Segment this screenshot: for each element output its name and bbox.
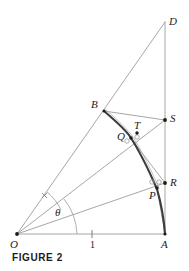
label-Q: Q xyxy=(117,130,125,142)
point-Q xyxy=(129,136,132,139)
ray-OD xyxy=(17,22,165,234)
point-O xyxy=(15,232,19,236)
label-T: T xyxy=(134,119,141,131)
right-angle-marker-Q xyxy=(125,139,129,143)
label-theta: θ xyxy=(55,206,61,218)
ray-OS xyxy=(17,120,165,234)
right-angle-marker-R xyxy=(157,180,161,184)
right-angle-marker-T xyxy=(135,135,139,139)
label-R: R xyxy=(169,176,177,188)
label-unit-length: 1 xyxy=(90,239,95,250)
label-P: P xyxy=(148,189,156,201)
point-R xyxy=(163,181,167,185)
curve-segment-QP xyxy=(131,138,157,189)
construction-lines xyxy=(17,22,165,234)
point-T xyxy=(135,131,138,134)
point-S xyxy=(163,118,167,122)
equal-angle-tick xyxy=(42,193,47,198)
geometry-diagram: D B S T Q R P O A θ 1 xyxy=(0,0,189,271)
figure-caption: FIGURE 2 xyxy=(12,252,63,263)
label-O: O xyxy=(10,238,18,250)
point-P xyxy=(155,186,158,189)
angle-arc-theta xyxy=(64,199,77,234)
label-D: D xyxy=(168,15,177,27)
label-S: S xyxy=(170,112,176,124)
label-A: A xyxy=(160,238,168,250)
ray-OR xyxy=(17,183,165,234)
angle-arcs xyxy=(47,192,77,234)
curve-highlight-QP xyxy=(133,137,159,188)
label-B: B xyxy=(91,98,98,110)
point-B xyxy=(103,110,106,113)
figure-container: D B S T Q R P O A θ 1 FIGURE 2 xyxy=(0,0,189,271)
point-A xyxy=(163,232,166,235)
